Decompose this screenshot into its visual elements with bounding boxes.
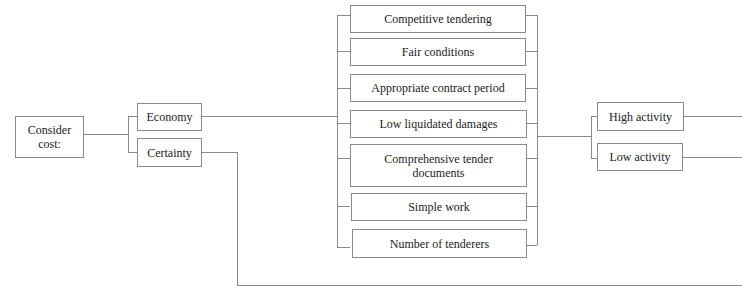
factor-tick-right-1 (526, 15, 537, 16)
low-activity-label: Low activity (610, 150, 671, 164)
factor-tick-right-3 (526, 88, 537, 89)
factor-tick-right-2 (526, 51, 537, 52)
consider-cost-node: Consider cost: (15, 116, 84, 158)
factor-tick-left-5 (337, 158, 350, 159)
factor-competitive-tendering: Competitive tendering (350, 5, 526, 33)
branch-tick-certainty (128, 152, 137, 153)
certainty-connector-h (202, 152, 238, 153)
factor-comprehensive-tender-documents: Comprehensive tender documents (350, 144, 527, 187)
factors-right-bracket (537, 15, 538, 245)
factor-tick-left-2 (337, 51, 350, 52)
factor-label: Competitive tendering (384, 12, 492, 26)
economy-label: Economy (147, 110, 193, 124)
factor-label: Simple work (408, 200, 470, 214)
low-activity-output (683, 157, 742, 158)
factor-tick-right-5 (527, 158, 537, 159)
factor-appropriate-contract-period: Appropriate contract period (350, 74, 526, 102)
branch-tick-economy (128, 116, 137, 117)
economy-node: Economy (137, 103, 202, 131)
high-activity-label: High activity (609, 110, 672, 124)
factor-tick-left-1 (337, 15, 350, 16)
factor-label: Fair conditions (402, 45, 474, 59)
certainty-connector-bottom (237, 285, 742, 286)
high-activity-node: High activity (597, 102, 684, 131)
factor-fair-conditions: Fair conditions (350, 38, 526, 66)
factor-label: Number of tenderers (390, 237, 489, 251)
factor-label: Appropriate contract period (371, 81, 504, 95)
outcome-bracket (591, 116, 592, 158)
cost-decision-diagram: Consider cost: Economy Certainty Competi… (0, 0, 742, 306)
factors-left-bracket (337, 15, 338, 247)
high-activity-output (684, 116, 742, 117)
factor-tick-right-6 (527, 206, 537, 207)
factor-label: Comprehensive tender documents (381, 152, 496, 180)
certainty-label: Certainty (147, 146, 192, 160)
certainty-connector-v (237, 152, 238, 285)
low-activity-node: Low activity (597, 143, 683, 171)
consider-cost-label: Consider cost: (20, 123, 79, 151)
branch-bracket (128, 116, 129, 152)
certainty-node: Certainty (137, 138, 202, 167)
factor-tick-left-3 (337, 88, 350, 89)
factors-output-connector (537, 136, 591, 137)
factor-number-of-tenderers: Number of tenderers (352, 229, 527, 258)
factor-tick-left-6 (337, 206, 350, 207)
factor-tick-right-4 (527, 123, 537, 124)
root-connector (84, 134, 128, 135)
factor-tick-left-4 (337, 123, 350, 124)
factor-simple-work: Simple work (351, 193, 527, 221)
factor-label: Low liquidated damages (380, 117, 498, 131)
factor-tick-left-7 (337, 247, 350, 248)
economy-connector (202, 116, 337, 117)
factor-low-liquidated-damages: Low liquidated damages (350, 110, 527, 138)
factor-tick-right-7 (527, 245, 537, 246)
